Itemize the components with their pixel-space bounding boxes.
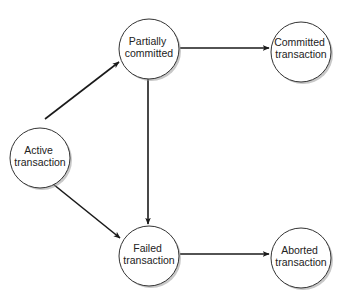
node-label-line1: Failed — [133, 242, 162, 254]
node-label: Partially committed — [125, 35, 174, 59]
node-failed-transaction: Failed transaction — [119, 226, 181, 288]
node-label-line2: transaction — [14, 156, 66, 168]
transaction-state-diagram: Active transaction Partially committed C… — [0, 0, 347, 298]
node-label-line2: transaction — [123, 254, 175, 266]
node-aborted-transaction: Aborted transaction — [271, 228, 333, 290]
node-active-transaction: Active transaction — [10, 128, 72, 190]
node-label-line1: Active — [24, 144, 53, 156]
node-committed-transaction: Committed transaction — [271, 22, 333, 84]
node-label-line1: Aborted — [281, 244, 318, 256]
node-label-line2: transaction — [275, 48, 327, 60]
node-label: Aborted transaction — [275, 244, 327, 268]
node-label: Committed transaction — [274, 36, 328, 60]
node-label-line2: committed — [125, 47, 174, 59]
node-label-line2: transaction — [275, 256, 327, 268]
node-partially-committed: Partially committed — [119, 19, 181, 81]
node-label-line1: Partially — [129, 35, 167, 47]
node-label-line1: Committed — [274, 36, 325, 48]
edge-active-to-failed — [48, 180, 120, 238]
edge-active-to-partially-committed — [45, 62, 119, 119]
